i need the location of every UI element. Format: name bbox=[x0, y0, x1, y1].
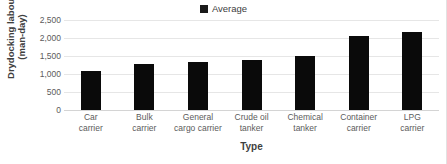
y-axis-title: Drydocking labour (man-day) bbox=[0, 0, 33, 99]
y-axis-title-line-1: Drydocking labour bbox=[5, 0, 16, 79]
chart-legend: Average bbox=[0, 2, 447, 16]
x-axis-tick-label: Bulkcarrier bbox=[118, 112, 172, 138]
x-axis-tick-label-line: General bbox=[183, 112, 213, 123]
x-axis-tick-labels: CarcarrierBulkcarrierGeneralcargo carrie… bbox=[64, 112, 439, 138]
y-axis-tick-label: 500 bbox=[47, 87, 61, 97]
bar[interactable] bbox=[188, 62, 208, 110]
x-axis-tick-label: Crude oiltanker bbox=[225, 112, 279, 138]
bar[interactable] bbox=[402, 32, 422, 110]
x-axis-tick-label: LPGcarrier bbox=[385, 112, 439, 138]
x-axis-tick-label-line: Container bbox=[340, 112, 377, 123]
x-axis-tick-label-line: carrier bbox=[79, 123, 103, 134]
x-axis-tick-label-line: tanker bbox=[240, 123, 264, 134]
legend-swatch-average bbox=[200, 5, 208, 13]
y-axis-tick-label: 1,500 bbox=[40, 51, 61, 61]
y-axis-tick-label: 1,000 bbox=[40, 69, 61, 79]
x-axis-tick-label: Generalcargo carrier bbox=[171, 112, 225, 138]
x-axis-tick-label-line: carrier bbox=[132, 123, 156, 134]
x-axis-tick-label: Carcarrier bbox=[64, 112, 118, 138]
bar[interactable] bbox=[134, 64, 154, 110]
bar-slot bbox=[278, 20, 332, 110]
y-axis-tick-label: 2,000 bbox=[40, 33, 61, 43]
x-axis-tick-label-line: Car bbox=[84, 112, 98, 123]
x-axis-tick-label-line: carrier bbox=[400, 123, 424, 134]
bar-chart: Average Drydocking labour (man-day) 2,50… bbox=[0, 0, 447, 164]
y-axis-tick-label: 2,500 bbox=[40, 15, 61, 25]
bar-slot bbox=[171, 20, 225, 110]
y-axis-tick-label: 0 bbox=[56, 105, 61, 115]
bar[interactable] bbox=[81, 71, 101, 110]
x-axis-tick-label: Chemicaltanker bbox=[278, 112, 332, 138]
plot-area bbox=[64, 20, 439, 110]
bar[interactable] bbox=[242, 60, 262, 110]
bar-slot bbox=[118, 20, 172, 110]
x-axis-tick-label: Containercarrier bbox=[332, 112, 386, 138]
bar[interactable] bbox=[349, 36, 369, 110]
x-axis-tick-label-line: cargo carrier bbox=[174, 123, 222, 134]
x-axis-tick-label-line: LPG bbox=[404, 112, 421, 123]
bar-slot bbox=[64, 20, 118, 110]
bar[interactable] bbox=[295, 56, 315, 110]
bar-slot bbox=[385, 20, 439, 110]
y-axis-title-line-2: (man-day) bbox=[16, 14, 27, 59]
bar-slot bbox=[332, 20, 386, 110]
x-axis-tick-label-line: carrier bbox=[347, 123, 371, 134]
x-axis-tick-label-line: Bulk bbox=[136, 112, 153, 123]
x-axis-tick-label-line: tanker bbox=[293, 123, 317, 134]
bar-series-average bbox=[64, 20, 439, 110]
x-axis-tick-label-line: Crude oil bbox=[235, 112, 269, 123]
x-axis-title: Type bbox=[64, 141, 439, 152]
x-axis-tick-label-line: Chemical bbox=[287, 112, 322, 123]
axis-baseline bbox=[64, 110, 439, 111]
bar-slot bbox=[225, 20, 279, 110]
y-axis-tick-labels: 2,5002,0001,5001,0005000 bbox=[30, 14, 61, 116]
legend-label-average: Average bbox=[212, 4, 247, 14]
